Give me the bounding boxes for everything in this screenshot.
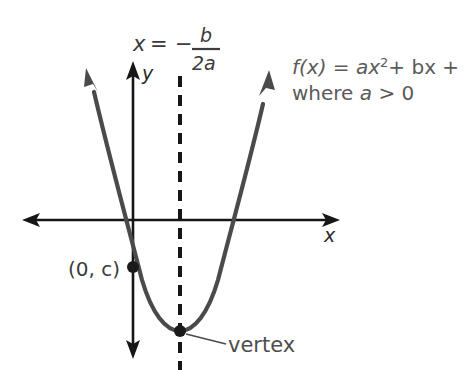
formula-x-variable: x [132,32,146,56]
vertex-label: vertex [228,333,295,357]
parabola-right-arrowhead [259,70,275,96]
vertex-leader-line [186,334,226,344]
condition-variable: a [360,81,372,105]
function-equation-line: f(x) = ax2+ bx + [292,55,459,79]
function-equation-tail: + bx + [388,55,459,79]
y-axis [126,61,140,359]
figure-canvas: y x (0, c) vertex x = − b 2a f(x) = ax2+… [0,0,474,370]
y-axis-label: y [141,62,154,84]
formula-minus-sign: − [175,32,193,56]
condition-where-word: where [292,81,360,105]
parabola-left-arrowhead [84,68,98,92]
function-definition-text: f(x) = ax2+ bx + where a > 0 [292,55,459,105]
parabola-diagram: y x (0, c) vertex x = − b 2a f(x) = ax2+… [0,0,474,370]
function-equation-exponent: 2 [380,55,388,70]
vertex-point [174,325,186,337]
y-intercept-point [127,261,139,273]
formula-numerator-b: b [200,24,212,46]
condition-rest: > 0 [372,81,414,105]
function-equation-lead: f(x) = ax [292,55,380,79]
formula-denominator-2a: 2a [192,52,216,74]
x-axis-label: x [323,224,336,246]
y-intercept-label: (0, c) [68,257,120,281]
function-condition-line: where a > 0 [292,81,414,105]
formula-equals-sign: = [150,32,168,56]
